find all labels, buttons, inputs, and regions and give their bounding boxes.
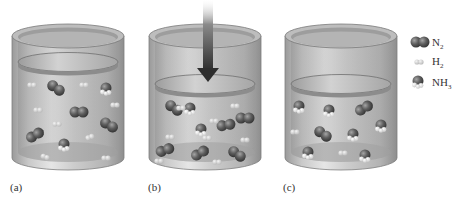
- piston: [18, 53, 118, 76]
- n2-molecule-icon: [411, 37, 430, 48]
- legend-label-n2: N: [432, 36, 440, 48]
- legend-item-n2: N2: [411, 36, 444, 51]
- le-chatelier-diagram: (a) (b): [0, 0, 468, 206]
- caption-b: (b): [148, 181, 161, 194]
- caption-c: (c): [283, 181, 296, 194]
- panel-a: [12, 24, 124, 170]
- h2-molecule-icon: [414, 59, 423, 64]
- svg-text:NH3: NH3: [432, 76, 452, 91]
- legend-item-h2: H2: [414, 55, 444, 70]
- legend-sub-n2: 2: [440, 43, 444, 51]
- svg-text:N2: N2: [432, 36, 444, 51]
- legend-label-h2: H: [432, 55, 440, 67]
- caption-a: (a): [10, 181, 23, 194]
- legend-item-nh3: NH3: [412, 76, 452, 92]
- panel-c: [285, 24, 397, 170]
- piston: [291, 75, 391, 98]
- nh3-molecule-icon: [412, 76, 423, 89]
- svg-text:H2: H2: [432, 55, 444, 70]
- legend-label-nh3: NH: [432, 76, 448, 88]
- legend-sub-h2: 2: [440, 62, 444, 70]
- legend-sub-nh3: 3: [448, 83, 452, 91]
- legend: N2 H2 NH3: [411, 36, 452, 91]
